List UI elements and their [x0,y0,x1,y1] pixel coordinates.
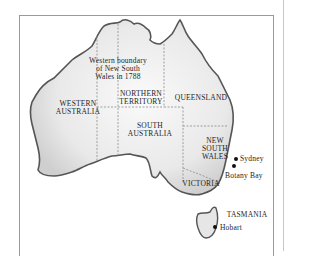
sydney-text: Sydney [240,154,264,163]
annotation-line-3: Wales in 1788 [80,73,156,81]
label-botany-bay: Botany Bay [225,172,263,180]
sa-line-2: AUSTRALIA [125,130,175,138]
nsw-line-3: WALES [196,153,234,161]
vic-line-1: VICTORIA [178,180,224,188]
label-queensland: QUEENSLAND [170,94,232,102]
nsw-1788-annotation: Western boundary of New South Wales in 1… [80,57,156,81]
wa-line-2: AUSTRALIA [50,108,106,116]
hobart-dot [213,225,217,229]
hobart-text: Hobart [220,223,242,232]
label-sydney: Sydney [240,155,264,163]
qld-line-1: QUEENSLAND [170,94,232,102]
sydney-dot [234,157,238,161]
tas-line-1: TASMANIA [222,211,272,219]
label-northern-territory: NORTHERN TERRITORY [117,90,165,106]
tasmania-outline [197,207,218,238]
nt-line-2: TERRITORY [117,98,165,106]
label-south-australia: SOUTH AUSTRALIA [125,122,175,138]
label-hobart: Hobart [220,224,242,232]
label-tasmania: TASMANIA [222,211,272,219]
label-new-south-wales: NEW SOUTH WALES [196,137,234,161]
label-victoria: VICTORIA [178,180,224,188]
botany-bay-dot [232,164,236,168]
botany-bay-text: Botany Bay [225,171,263,180]
label-western-australia: WESTERN AUSTRALIA [50,100,106,116]
